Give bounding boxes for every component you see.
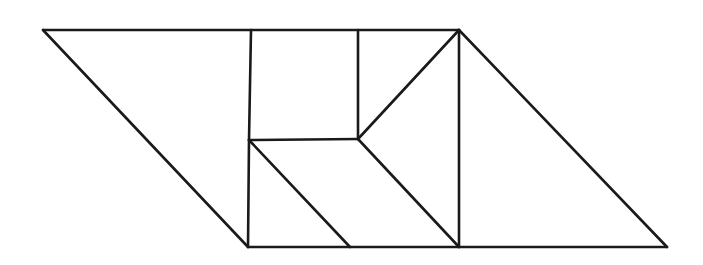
geometric-figure-canvas: Parallelogram Tangram Dissection A paral… (0, 0, 703, 265)
inner-square (249, 30, 358, 140)
square-bottom-edge (249, 139, 358, 140)
lower-left-vertical (248, 140, 249, 247)
